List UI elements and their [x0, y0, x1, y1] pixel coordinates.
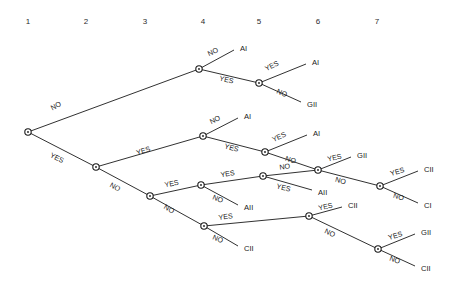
edge-label-e14: NO: [334, 175, 347, 187]
tree-edge-e18: [150, 196, 204, 226]
edge-label-e7: YES: [135, 144, 152, 157]
edge-label-e4: YES: [219, 74, 235, 86]
edge-label-e20: NO: [211, 192, 225, 205]
tree-node-center-n4: [258, 82, 260, 84]
tree-node-center-n12: [203, 225, 205, 227]
edge-label-e16: NO: [392, 191, 405, 203]
edge-labels-group: NOYESNOYESYESNOYESNONOYESYESNOYESNOYESNO…: [49, 45, 406, 266]
tree-node-center-n2: [95, 166, 97, 168]
tree-node-center-n14: [377, 248, 379, 250]
tree-node-center-n10: [200, 184, 202, 186]
tree-node-center-n13: [308, 215, 310, 217]
edge-label-e11: YES: [271, 130, 288, 144]
edge-label-e17: YES: [164, 178, 180, 190]
tree-edge-e14: [318, 170, 380, 186]
decision-tree-diagram: 1234567 NOYESNOYESYESNOYESNONOYESYESNOYE…: [0, 0, 462, 288]
leaf-label-leaf2: AI: [312, 58, 319, 67]
leaf-label-leaf12: CII: [348, 201, 358, 210]
edge-label-e1: NO: [49, 99, 63, 112]
edge-label-e3: NO: [206, 45, 220, 58]
edge-label-e10: YES: [224, 141, 240, 153]
edge-label-e9: NO: [208, 113, 222, 126]
leaf-label-leaf8: CI: [424, 201, 432, 210]
edge-label-e21: NO: [279, 161, 291, 171]
tree-node-center-n11: [262, 175, 264, 177]
leaf-label-leaf14: CII: [421, 264, 431, 273]
edge-label-e13: YES: [326, 152, 342, 164]
tree-edge-e26: [309, 216, 378, 249]
edge-label-e6: NO: [275, 86, 289, 99]
tree-edge-e1: [28, 69, 199, 132]
edge-label-e15: YES: [389, 165, 406, 178]
leaf-label-leaf5: AI: [313, 129, 320, 138]
leaf-label-leaf10: AII: [318, 188, 327, 197]
leaf-label-leaf1: AI: [240, 44, 247, 53]
edge-label-e2: YES: [49, 150, 66, 165]
edge-label-e24: NO: [211, 232, 225, 245]
leaf-label-leaf13: GII: [421, 228, 431, 237]
leaf-label-leaf11: CII: [244, 244, 254, 253]
tree-node-center-n6: [264, 151, 266, 153]
edge-label-e5: YES: [263, 58, 280, 73]
edge-label-e25: YES: [317, 201, 333, 213]
tree-node-center-n9: [149, 195, 151, 197]
tree-edge-e8: [96, 167, 150, 196]
leaf-label-leaf7: CII: [424, 165, 434, 174]
leaf-label-leaf3: GII: [307, 100, 317, 109]
edge-label-e19: YES: [220, 168, 236, 179]
leaf-label-leaf9: AII: [244, 203, 253, 212]
edge-label-e8: NO: [108, 180, 122, 193]
leaf-label-leaf4: AI: [244, 112, 251, 121]
decision-tree-canvas: NOYESNOYESYESNOYESNONOYESYESNOYESNOYESNO…: [0, 0, 462, 288]
edge-label-e28: NO: [388, 254, 402, 266]
leaf-label-leaf6: GII: [357, 151, 367, 160]
tree-node-center-n5: [202, 135, 204, 137]
tree-node-center-n7: [317, 169, 319, 171]
tree-edge-e21: [263, 170, 318, 176]
tree-node-center-n1: [27, 131, 29, 133]
tree-node-center-n3: [198, 68, 200, 70]
edge-label-e23: YES: [218, 211, 234, 222]
tree-node-center-n8: [379, 185, 381, 187]
